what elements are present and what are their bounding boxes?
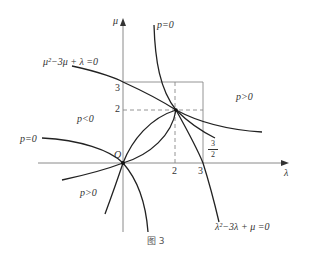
figure-caption: 图 3 — [147, 234, 165, 247]
origin-point — [121, 161, 125, 165]
lambda-axis-arrow-icon — [281, 160, 289, 166]
region-label-left: p<0 — [77, 114, 94, 124]
y-tick-2: 2 — [115, 104, 120, 114]
origin-label: O — [114, 150, 121, 160]
curve-lens-right — [123, 110, 176, 163]
x-tick-2: 2 — [172, 166, 177, 176]
label-p0-left: p=0 — [20, 134, 37, 144]
mu-axis-arrow-icon — [120, 18, 126, 26]
fraction-tick-three-halves: 3 2 — [208, 140, 218, 159]
axes — [38, 22, 285, 232]
region-label-upper-right: p>0 — [236, 92, 253, 102]
curve-lambda-parabola-left — [105, 163, 123, 214]
intersection-point — [174, 108, 178, 112]
x-tick-3: 3 — [198, 166, 203, 176]
curve-lens-left — [123, 110, 176, 163]
curve-mu-parabola-lower — [62, 163, 123, 180]
equation-lambda-parabola: λ²−3λ + μ =0 — [215, 222, 269, 232]
lambda-axis-label: λ — [284, 168, 288, 178]
mu-axis-label: μ — [113, 16, 118, 26]
y-tick-3: 3 — [115, 83, 120, 93]
region-label-lower: p>0 — [80, 188, 97, 198]
curve-p0-upper — [154, 25, 215, 138]
curve-mu-parabola-upper — [72, 66, 262, 132]
equation-mu-parabola: μ²−3μ + λ =0 — [43, 57, 98, 67]
curve-p0-left — [42, 138, 148, 232]
label-p0-upper: p=0 — [157, 20, 174, 30]
